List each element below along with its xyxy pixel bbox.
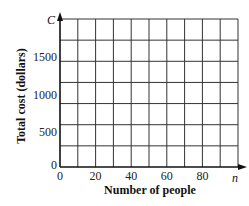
x-variable-label: n [232,171,238,185]
y-tick-1000: 1000 [33,88,57,102]
x-tick-60: 60 [161,169,173,183]
y-tick-1500: 1500 [33,50,57,64]
y-axis-title: Total cost (dollars) [14,48,28,144]
x-tick-80: 80 [196,169,208,183]
x-axis-arrow-icon [238,164,247,170]
x-axis-title: Number of people [104,183,196,197]
y-axis-arrow-icon [57,12,63,21]
x-tick-20: 20 [90,169,102,183]
chart-canvas: C n 1500 1000 500 0 0 20 40 60 80 Number… [0,0,249,206]
x-tick-40: 40 [125,169,137,183]
x-origin-label: 0 [57,169,63,183]
y-tick-500: 500 [39,125,57,139]
y-variable-label: C [47,13,56,27]
grid [60,19,238,167]
